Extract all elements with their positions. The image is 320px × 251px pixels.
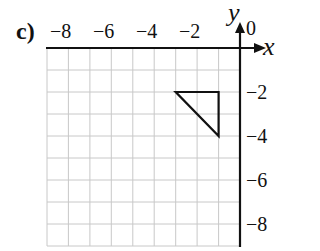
x-tick-label: −4	[136, 21, 157, 41]
x-tick-label: −2	[179, 21, 200, 41]
y-tick-label: −8	[246, 214, 267, 234]
x-axis-label: x	[263, 32, 275, 62]
y-tick-label: −6	[246, 170, 267, 190]
grid-lines	[47, 48, 240, 246]
y-axis-label: y	[228, 0, 240, 28]
x-tick-label: −6	[93, 21, 114, 41]
y-tick-label: −2	[246, 82, 267, 102]
origin-label: 0	[246, 18, 256, 38]
x-tick-label: −8	[50, 21, 71, 41]
y-tick-label: −4	[246, 126, 267, 146]
